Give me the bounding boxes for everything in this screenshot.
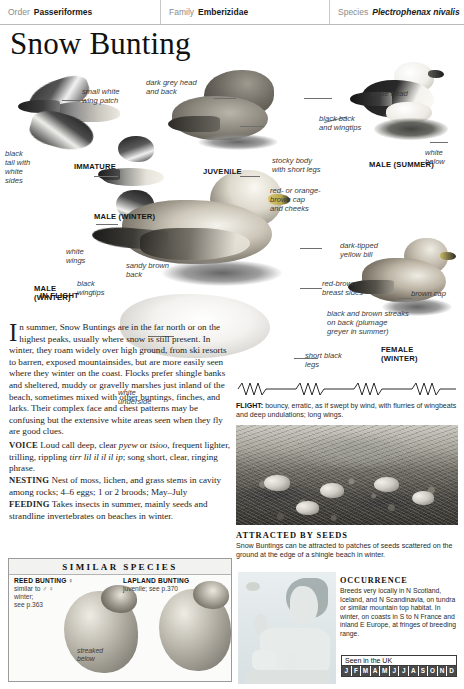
fact-voice: VOICE Loud call deep, clear pyew or tsio…	[9, 440, 231, 475]
month-aug[interactable]: A	[409, 666, 419, 676]
leader-line	[398, 298, 412, 299]
fact-voice-italic-1: pyew	[119, 440, 138, 450]
month-jul[interactable]: J	[399, 666, 409, 676]
taxonomy-order-value: Passeriformes	[34, 7, 93, 17]
fact-voice-italic-2: tsioo	[150, 440, 168, 450]
fact-voice-italic-3: tirr lil il il il ip	[69, 452, 122, 462]
map-iberia	[252, 650, 276, 670]
month-jun[interactable]: J	[390, 666, 400, 676]
caption-immature: IMMATURE	[74, 162, 116, 171]
photo-bird-5	[296, 501, 319, 515]
leader-line	[304, 98, 332, 99]
fact-nesting-label: NESTING	[9, 475, 49, 485]
label-dark-tipped-yellow-bill: dark-tipped yellow bill	[340, 241, 378, 259]
leader-line	[94, 176, 118, 177]
description-text: n summer, Snow Buntings are in the far n…	[9, 322, 227, 436]
label-stocky-body-with-short-legs: stocky body with short legs	[272, 156, 321, 174]
field-guide-page: Order Passeriformes Family Emberizidae S…	[0, 0, 464, 689]
caption-male-winter-small: MALE (WINTER)	[94, 212, 155, 221]
label-black-tail-with-white-sides: black tail with white sides	[5, 149, 30, 185]
label-sandy-brown-back: sandy brown back	[126, 261, 169, 279]
similar-species-box: SIMILAR SPECIES REED BUNTING ♀ similar t…	[8, 558, 232, 682]
month-may[interactable]: M	[380, 666, 390, 676]
distribution-map	[238, 572, 336, 684]
month-feb[interactable]: F	[352, 666, 362, 676]
month-jan[interactable]: J	[342, 666, 352, 676]
label-black-and-brown-streaks-on-back: black and brown streaks on back (plumage…	[327, 309, 409, 336]
leader-line	[214, 98, 236, 99]
similar-species-annotation-reed-bunting: streaked below	[77, 647, 103, 663]
taxonomy-header: Order Passeriformes Family Emberizidae S…	[0, 0, 464, 25]
label-small-white-wing-patch: small white wing patch	[82, 87, 120, 105]
map-africa-north	[246, 670, 330, 684]
description-paragraph: In summer, Snow Buntings are in the far …	[9, 322, 231, 438]
label-brown-cap: brown cap	[411, 289, 446, 298]
flight-label: FLIGHT:	[236, 402, 263, 410]
leader-line	[300, 248, 322, 249]
label-red-brown-breast-sides: red-brown breast sides	[322, 279, 363, 297]
habitat-photo	[236, 425, 458, 525]
fact-nesting: NESTING Nest of moss, lichen, and grass …	[9, 475, 231, 498]
label-white-head: white head	[371, 89, 408, 98]
page-title: Snow Bunting	[10, 26, 191, 62]
month-dec[interactable]: D	[447, 666, 456, 676]
seen-in-uk-title: Seen in the UK	[342, 656, 456, 666]
month-oct[interactable]: O	[428, 666, 438, 676]
month-nov[interactable]: N	[438, 666, 448, 676]
fact-feeding-label: FEEDING	[9, 499, 50, 509]
leader-line	[300, 288, 322, 289]
similar-species-heading: SIMILAR SPECIES	[9, 559, 231, 575]
flight-text: bouncy, erratic, as if swept by wind, wi…	[236, 402, 456, 419]
photo-caption-body: Snow Buntings can be attracted to patche…	[236, 542, 458, 560]
bird-male-summer	[348, 62, 452, 148]
label-black-wingtips: black wingtips	[77, 279, 104, 297]
caption-male-winter: MALE (WINTER)	[34, 284, 71, 302]
species-description: In summer, Snow Buntings are in the far …	[9, 322, 231, 523]
similar-species-name: REED BUNTING ♀	[14, 577, 122, 584]
photo-bird-2	[320, 483, 344, 498]
taxonomy-order: Order Passeriformes	[0, 0, 160, 24]
flight-panel: FLIGHT: bouncy, erratic, as if swept by …	[236, 380, 458, 419]
fact-feeding: FEEDING Takes insects in summer, mainly …	[9, 499, 231, 522]
label-short-black-legs: short black legs	[305, 351, 342, 369]
drop-cap: I	[9, 322, 19, 343]
map-scandinavia	[290, 586, 318, 626]
fact-voice-text-1: Loud call deep, clear	[40, 440, 119, 450]
leader-line	[96, 224, 118, 225]
taxonomy-order-label: Order	[8, 7, 30, 17]
taxonomy-species-value: Plectrophenax nivalis	[372, 7, 459, 17]
leader-line	[240, 126, 264, 127]
photo-bird-4	[412, 491, 434, 505]
taxonomy-family-value: Emberizidae	[198, 7, 248, 17]
caption-female-winter: FEMALE (WINTER)	[381, 345, 418, 363]
month-mar[interactable]: M	[361, 666, 371, 676]
month-bar: J F M A M J J A S O N D	[342, 666, 456, 676]
occurrence-title: OCCURRENCE	[340, 576, 458, 585]
label-black-back-and-wingtips: black back and wingtips	[319, 114, 361, 132]
taxonomy-family: Family Emberizidae	[160, 0, 329, 24]
leader-line	[430, 142, 448, 143]
taxonomy-family-label: Family	[169, 7, 194, 17]
caption-male-summer: MALE (SUMMER)	[369, 160, 434, 169]
label-white-wings: white wings	[66, 247, 85, 265]
taxonomy-species: Species Plectrophenax nivalis	[329, 0, 464, 24]
fact-voice-text-2: or	[138, 440, 150, 450]
label-red-or-orange-brown-cap-and-cheeks: red- or orange- brown cap and cheeks	[270, 186, 321, 213]
occurrence-text: Breeds very locally in N Scotland, Icela…	[340, 587, 458, 639]
flight-pattern-icon	[236, 380, 458, 396]
month-apr[interactable]: A	[371, 666, 381, 676]
seen-in-uk-box: Seen in the UK J F M A M J J A S O N D	[341, 655, 457, 677]
map-iceland	[246, 582, 260, 591]
photo-bird-1	[264, 475, 290, 491]
caption-juvenile: JUVENILE	[203, 167, 242, 176]
photo-bird-3	[374, 477, 399, 492]
taxonomy-species-label: Species	[338, 7, 368, 17]
similar-species-head-lapland-bunting	[193, 581, 229, 609]
month-sep[interactable]: S	[419, 666, 429, 676]
leader-line	[240, 176, 260, 177]
flight-description: FLIGHT: bouncy, erratic, as if swept by …	[236, 402, 458, 419]
fact-voice-label: VOICE	[9, 440, 38, 450]
label-dark-grey-head-and-back: dark grey head and back	[146, 78, 197, 96]
photo-caption-title: ATTRACTED BY SEEDS	[236, 531, 458, 540]
fact-list: VOICE Loud call deep, clear pyew or tsio…	[9, 440, 231, 522]
